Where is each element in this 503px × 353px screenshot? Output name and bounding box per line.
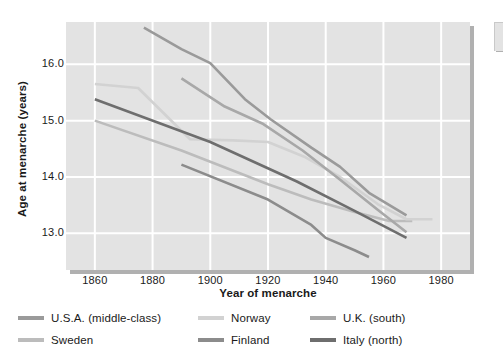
x-tick-label: 1900 bbox=[185, 274, 235, 286]
y-axis-label: Age at menarche (years) bbox=[16, 49, 28, 249]
legend-swatch-icon bbox=[310, 316, 336, 320]
x-tick-label: 1860 bbox=[70, 274, 120, 286]
legend-label: U.S.A. (middle-class) bbox=[51, 312, 161, 324]
legend-item[interactable]: Finland bbox=[198, 332, 269, 348]
legend-swatch-icon bbox=[18, 338, 44, 342]
legend-label: Finland bbox=[231, 334, 269, 346]
x-axis-ticks: 1860188019001920194019601980 bbox=[0, 0, 503, 353]
x-tick-label: 1980 bbox=[416, 274, 466, 286]
x-tick-label: 1940 bbox=[301, 274, 351, 286]
legend-item[interactable]: Sweden bbox=[18, 332, 93, 348]
legend-item[interactable]: U.S.A. (middle-class) bbox=[18, 310, 161, 326]
x-tick-label: 1880 bbox=[128, 274, 178, 286]
chart-figure: 13.014.015.016.0 18601880190019201940196… bbox=[0, 0, 503, 353]
chart-legend: U.S.A. (middle-class)NorwayU.K. (south)S… bbox=[18, 310, 488, 352]
x-axis-label: Year of menarche bbox=[66, 287, 470, 299]
legend-label: Italy (north) bbox=[343, 334, 402, 346]
legend-swatch-icon bbox=[198, 338, 224, 342]
x-tick-label: 1920 bbox=[243, 274, 293, 286]
legend-swatch-icon bbox=[310, 338, 336, 342]
legend-label: Sweden bbox=[51, 334, 93, 346]
x-tick-label: 1960 bbox=[358, 274, 408, 286]
legend-swatch-icon bbox=[198, 316, 224, 320]
legend-item[interactable]: Norway bbox=[198, 310, 271, 326]
legend-label: Norway bbox=[231, 312, 271, 324]
legend-item[interactable]: U.K. (south) bbox=[310, 310, 406, 326]
legend-label: U.K. (south) bbox=[343, 312, 406, 324]
legend-swatch-icon bbox=[18, 316, 44, 320]
legend-item[interactable]: Italy (north) bbox=[310, 332, 402, 348]
